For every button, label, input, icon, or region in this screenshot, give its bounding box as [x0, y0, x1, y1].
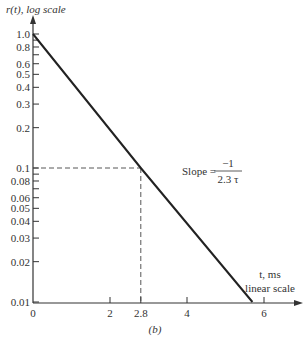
y-tick-label: 0.8 — [16, 41, 30, 53]
svg-text:Slope =: Slope = — [182, 165, 216, 177]
x-tick-label: 4 — [184, 307, 190, 319]
y-tick-label: 1.0 — [16, 28, 30, 40]
y-tick-label: 0.3 — [16, 98, 30, 110]
x-tick-label: 0 — [30, 307, 36, 319]
x-axis-title-line1: t, ms — [259, 268, 280, 280]
x-ticks: 022.846 — [30, 297, 267, 319]
slope-annotation: Slope = −1 2.3 τ — [182, 157, 242, 185]
y-axis-title: r(t), log scale — [6, 3, 66, 16]
x-axis: 022.846 — [30, 297, 303, 319]
y-tick-label: 0.2 — [16, 122, 30, 134]
x-tick-label: 2 — [107, 307, 113, 319]
x-axis-title-line2: linear scale — [245, 282, 295, 294]
log-decay-chart: 1.00.80.60.50.40.30.20.10.080.060.050.04… — [0, 0, 308, 339]
svg-text:2.3 τ: 2.3 τ — [218, 173, 240, 185]
y-tick-label: 0.08 — [11, 175, 31, 187]
y-tick-label: 0.5 — [16, 68, 30, 80]
x-tick-label: 2.8 — [134, 307, 148, 319]
x-tick-label: 6 — [261, 307, 267, 319]
y-tick-label: 0.02 — [11, 256, 30, 268]
svg-text:−1: −1 — [222, 157, 234, 169]
y-axis: 1.00.80.60.50.40.30.20.10.080.060.050.04… — [11, 15, 39, 308]
y-tick-label: 0.1 — [16, 162, 30, 174]
y-tick-label: 0.01 — [11, 296, 30, 308]
y-tick-label: 0.4 — [16, 81, 30, 93]
y-tick-label: 0.05 — [11, 202, 31, 214]
y-tick-label: 0.04 — [11, 215, 31, 227]
x-axis-arrow-icon — [294, 300, 303, 306]
figure-caption: (b) — [149, 323, 162, 336]
y-tick-label: 0.03 — [11, 232, 31, 244]
dashed-guides — [33, 168, 141, 303]
y-axis-arrow-icon — [30, 15, 36, 24]
